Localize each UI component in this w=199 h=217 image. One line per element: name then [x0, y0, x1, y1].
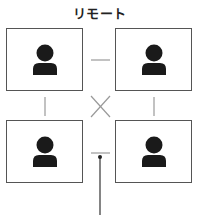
pointer-dot — [98, 155, 102, 159]
participant-box-top-right — [115, 28, 192, 91]
person-icon — [141, 136, 167, 168]
participant-box-top-left — [6, 28, 83, 91]
person-icon — [32, 136, 58, 168]
participant-box-bottom-left — [6, 120, 83, 183]
person-icon — [141, 44, 167, 76]
person-icon — [32, 44, 58, 76]
participant-box-bottom-right — [115, 120, 192, 183]
